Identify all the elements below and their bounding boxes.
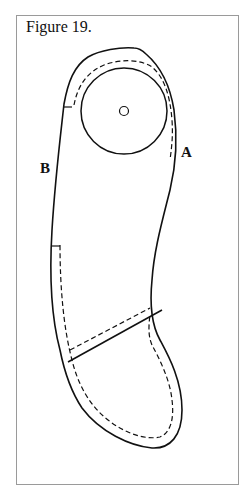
cross-seam-line [68,310,162,362]
circle-piece [81,68,167,154]
label-b: B [40,160,50,177]
cross-seam-dashed [70,308,150,350]
seam-allowance-top [74,61,172,160]
center-hole [120,107,129,116]
seam-allowance-bottom [60,245,173,438]
label-a: A [181,144,192,161]
outer-cut-line [51,48,182,448]
pattern-diagram [0,0,252,504]
